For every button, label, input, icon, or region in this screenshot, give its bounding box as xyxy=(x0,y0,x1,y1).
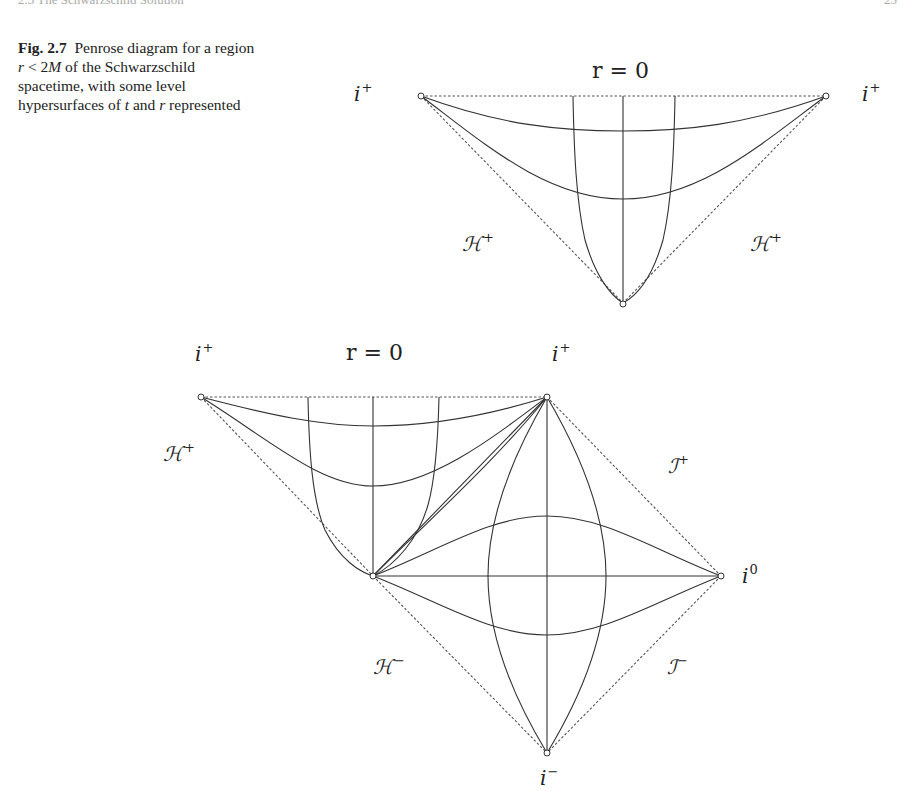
bottom-vertex-top-right xyxy=(544,394,550,400)
top-horizon-right xyxy=(623,96,826,303)
top-vertex-left xyxy=(418,93,424,99)
top-label-i-plus-right: i+ xyxy=(862,80,880,106)
bottom-label-r-equals-0: r = 0 xyxy=(346,340,403,365)
top-vertex-bottom xyxy=(620,301,626,307)
penrose-diagrams xyxy=(0,0,915,791)
bottom-label-scri-minus: ℐ− xyxy=(667,653,688,679)
bottom-label-i0: i0 xyxy=(742,562,758,588)
top-penrose-diagram xyxy=(418,93,829,307)
top-label-H-plus-right: ℋ+ xyxy=(750,230,782,256)
bottom-penrose-diagram xyxy=(198,394,724,756)
bottom-label-H-plus: ℋ+ xyxy=(163,440,195,466)
bottom-label-i-minus: i− xyxy=(540,764,558,790)
bottom-vertex-mid-left xyxy=(370,573,376,579)
top-horizon-left xyxy=(421,96,623,303)
top-label-i-plus-left: i+ xyxy=(354,80,372,106)
bottom-vertex-i0 xyxy=(718,573,724,579)
bottom-vertex-top-left xyxy=(198,394,204,400)
top-label-r-equals-0: r = 0 xyxy=(592,58,649,83)
bottom-vertex-i-minus xyxy=(544,750,550,756)
bottom-label-H-minus: ℋ− xyxy=(373,653,405,679)
bottom-label-i-plus-right: i+ xyxy=(552,340,570,366)
top-vertex-right xyxy=(823,93,829,99)
bottom-label-scri-plus: ℐ+ xyxy=(668,452,689,478)
top-label-H-plus-left: ℋ+ xyxy=(462,230,494,256)
bottom-label-i-plus-left: i+ xyxy=(195,340,213,366)
